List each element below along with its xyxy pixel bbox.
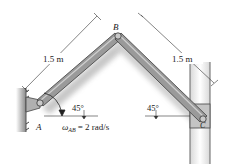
- mechanism-diagram: 1.5 m 1.5 m 45° 45° A B C ωAB= 2 rad/s: [0, 0, 230, 164]
- angular-velocity-label: ωAB= 2 rad/s: [62, 122, 110, 133]
- pin-b: [115, 33, 121, 39]
- omega-subscript: AB: [67, 127, 76, 133]
- pin-a: [37, 100, 43, 106]
- label-point-a: A: [35, 122, 42, 132]
- label-point-b: B: [113, 22, 119, 32]
- label-point-c: C: [200, 121, 206, 130]
- label-angle-c: 45°: [147, 103, 159, 113]
- label-bc-length: 1.5 m: [172, 54, 193, 64]
- omega-value: = 2 rad/s: [78, 122, 110, 132]
- label-ab-length: 1.5 m: [43, 54, 64, 64]
- label-angle-a: 45°: [72, 103, 84, 113]
